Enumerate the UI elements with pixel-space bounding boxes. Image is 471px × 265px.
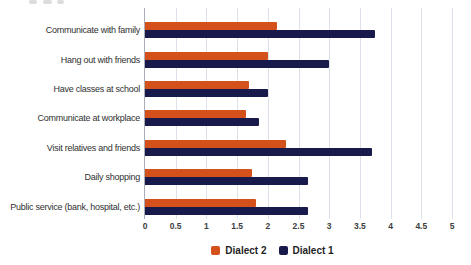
category-label: Public service (bank, hospital, etc.) (0, 192, 145, 221)
x-tick-label: 2 (265, 221, 270, 231)
category-label: Have classes at school (0, 74, 145, 103)
bar-dialect-1 (145, 118, 259, 126)
bar-group (145, 74, 452, 103)
bar-group (145, 133, 452, 162)
legend-label: Dialect 2 (225, 245, 266, 256)
x-tick-label: 4.5 (415, 221, 427, 231)
category-label: Daily shopping (0, 163, 145, 192)
chart-screenshot: { "chart_data": { "type": "bar", "orient… (0, 0, 471, 265)
bar-dialect-2 (145, 81, 249, 89)
x-tick-label: 3.5 (354, 221, 366, 231)
x-tick-label: 0.5 (170, 221, 182, 231)
bar-dialect-2 (145, 22, 277, 30)
legend-swatch (279, 246, 288, 255)
bar-group (145, 163, 452, 192)
x-tick-label: 0 (143, 221, 148, 231)
cropped-text-artifact (29, 0, 37, 4)
bar-dialect-1 (145, 60, 329, 68)
category-labels: Communicate with familyHang out with fri… (0, 16, 145, 222)
bar-dialect-1 (145, 148, 372, 156)
bar-group (145, 192, 452, 221)
cropped-text-artifact (43, 0, 52, 4)
category-label: Communicate at workplace (0, 104, 145, 133)
x-axis-ticks: 00.511.522.533.544.55 (145, 221, 452, 233)
legend-item: Dialect 1 (279, 245, 334, 256)
bar-dialect-2 (145, 52, 268, 60)
legend-swatch (211, 246, 220, 255)
bar-dialect-2 (145, 110, 246, 118)
cropped-text-artifact (57, 0, 64, 4)
plot-area (145, 8, 452, 219)
bar-group (145, 45, 452, 74)
bar-group (145, 104, 452, 133)
category-label: Hang out with friends (0, 45, 145, 74)
gridline (452, 8, 453, 219)
bar-dialect-2 (145, 199, 256, 207)
bar-group (145, 16, 452, 45)
bar-rows (145, 16, 452, 222)
x-tick-label: 3 (327, 221, 332, 231)
bar-dialect-1 (145, 30, 375, 38)
bar-dialect-1 (145, 89, 268, 97)
bar-dialect-2 (145, 169, 252, 177)
legend-item: Dialect 2 (211, 245, 266, 256)
bar-dialect-2 (145, 140, 286, 148)
legend-label: Dialect 1 (293, 245, 334, 256)
bar-dialect-1 (145, 177, 308, 185)
category-label: Communicate with family (0, 16, 145, 45)
x-tick-label: 1 (204, 221, 209, 231)
x-tick-label: 1.5 (231, 221, 243, 231)
legend: Dialect 2Dialect 1 (0, 245, 471, 256)
bar-chart: Communicate with familyHang out with fri… (0, 0, 471, 265)
x-tick-label: 4 (388, 221, 393, 231)
x-tick-label: 5 (450, 221, 455, 231)
bar-dialect-1 (145, 207, 308, 215)
category-label: Visit relatives and friends (0, 133, 145, 162)
x-tick-label: 2.5 (293, 221, 305, 231)
